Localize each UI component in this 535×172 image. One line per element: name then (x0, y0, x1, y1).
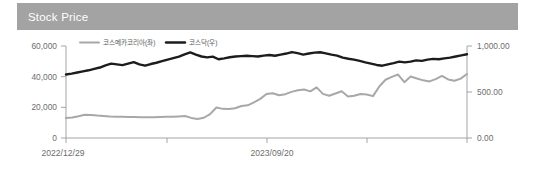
right-axis-label-0: 0.00 (477, 133, 494, 143)
series-line-cosmecca (66, 74, 467, 119)
right-axis-label-1000: 1,000.00 (477, 41, 510, 51)
widget-header-bar: Stock Price (17, 3, 518, 30)
left-axis-label-40000: 40,000 (31, 72, 57, 82)
legend-label-cosmecca: 코스메카코리아(좌) (103, 38, 155, 47)
page-title: Stock Price (28, 11, 88, 23)
stock-price-chart: 코스메카코리아(좌) 코스닥(우) 60,000 40,000 20,000 0 (0, 30, 535, 172)
right-axis-label-500: 500.00 (477, 87, 503, 97)
left-axis-label-20000: 20,000 (31, 102, 57, 112)
stock-price-widget: Stock Price 코스메카코리아(좌) 코스닥(우) 60,000 40,… (0, 0, 535, 172)
chart-svg: 코스메카코리아(좌) 코스닥(우) 60,000 40,000 20,000 0 (0, 30, 535, 172)
x-axis-label-start: 2022/12/29 (41, 148, 84, 158)
right-y-axis: 1,000.00 500.00 0.00 (467, 41, 510, 143)
legend-label-kosdaq: 코스닥(우) (189, 38, 217, 47)
left-axis-label-60000: 60,000 (31, 41, 57, 51)
left-axis-label-0: 0 (52, 133, 57, 143)
chart-legend: 코스메카코리아(좌) 코스닥(우) (80, 38, 217, 47)
x-axis-label-mid: 2023/09/20 (250, 148, 293, 158)
series-line-kosdaq (66, 52, 467, 74)
x-axis: 2022/12/29 2023/09/20 (41, 138, 467, 158)
left-y-axis: 60,000 40,000 20,000 0 (31, 41, 66, 143)
chart-series-group (66, 52, 467, 119)
